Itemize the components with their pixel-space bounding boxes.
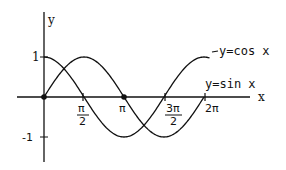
cos-series-label: y=cos x: [219, 44, 270, 58]
sin-series-label: y=sin x: [205, 77, 256, 91]
y-tick-label-1: 1: [32, 50, 40, 64]
x-tick-label-pi: π: [119, 102, 126, 115]
x-tick-label-3pi-half-num: 3π: [166, 102, 180, 115]
x-tick-label-3pi-half-den: 2: [170, 115, 177, 128]
pi-point: [121, 94, 127, 100]
x-tick-label-pi-half-num: π: [78, 102, 85, 115]
trig-chart: y x 1 -1 π 2 π 3π 2 2π y=cos x y=sin x: [0, 0, 286, 170]
x-tick-label-pi-half-den: 2: [79, 115, 86, 128]
x-tick-label-2pi: 2π: [205, 102, 219, 115]
y-axis-label: y: [47, 13, 55, 27]
y-tick-label-neg1: -1: [22, 131, 33, 144]
x-axis-label: x: [258, 90, 265, 104]
cos-label-leader: [212, 51, 218, 52]
origin-point: [41, 94, 47, 100]
